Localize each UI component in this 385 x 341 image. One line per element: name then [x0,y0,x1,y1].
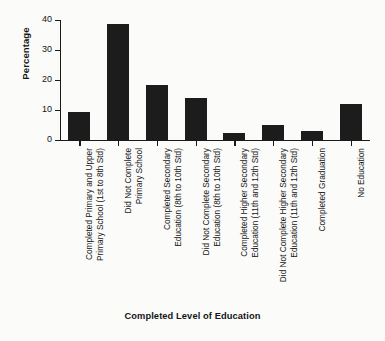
x-category-label-line: Completed Secondary [162,148,172,230]
y-tick-label: 10 [42,104,52,114]
x-tick [312,140,313,146]
bar [340,104,362,140]
plot-area: 010203040 [60,20,370,140]
y-axis-title: Percentage [20,0,31,109]
x-category-label-line: Did Not Complete Secondary [201,148,211,255]
x-category-label-line: Primary School (1st to 8th Std) [95,148,106,298]
x-category-label-line: Completed Higher Secondary [239,148,249,257]
y-tick: 10 [55,110,60,111]
y-axis-line [60,20,61,140]
x-category-label-line: Primary School [134,148,145,298]
x-tick [196,140,197,146]
x-axis-title: Completed Level of Education [0,311,385,321]
bar-chart-figure: Percentage 010203040 Completed Primary a… [0,0,385,341]
x-category-label-line: Education (8th to 10th Std) [172,148,183,298]
y-tick: 20 [55,80,60,81]
x-category-label: No Education [356,148,367,298]
x-tick [351,140,352,146]
bar [262,125,284,140]
bar [146,85,168,141]
y-tick-label: 30 [42,44,52,54]
x-category-label-line: No Education [356,148,366,198]
x-category-label: Completed Higher SecondaryEducation (11t… [239,148,260,298]
x-tick [79,140,80,146]
x-category-label: Did Not Complete SecondaryEducation (8th… [201,148,222,298]
x-tick [273,140,274,146]
x-tick [234,140,235,146]
x-category-label-line: Education (11th and 12th Std) [289,148,300,298]
y-tick: 0 [55,140,60,141]
y-tick: 30 [55,50,60,51]
bar [68,112,90,140]
x-category-label: Did Not CompletePrimary School [123,148,144,298]
x-tick [118,140,119,146]
x-category-label: Did Not Complete Higher SecondaryEducati… [278,148,299,298]
x-category-label-line: Completed Primary and Upper [84,148,94,260]
y-tick-label: 0 [47,134,52,144]
y-tick-label: 40 [42,14,52,24]
x-category-label-group: Completed Primary and UpperPrimary Schoo… [60,148,370,298]
x-category-label: Completed Graduation [317,148,328,298]
y-tick: 40 [55,20,60,21]
y-tick-label: 20 [42,74,52,84]
x-category-label-line: Completed Graduation [317,148,327,231]
x-category-label-line: Did Not Complete [123,148,133,213]
x-category-label-line: Education (11th and 12th Std) [250,148,261,298]
x-category-label: Completed Primary and UpperPrimary Schoo… [84,148,105,298]
bar [107,24,129,140]
x-axis-line [60,140,370,141]
bar [301,131,323,140]
bar [185,98,207,140]
x-tick [157,140,158,146]
x-category-label-line: Education (8th to 10th Std) [211,148,222,298]
bar [223,133,245,140]
x-category-label-line: Did Not Complete Higher Secondary [278,148,288,282]
x-category-label: Completed SecondaryEducation (8th to 10t… [162,148,183,298]
